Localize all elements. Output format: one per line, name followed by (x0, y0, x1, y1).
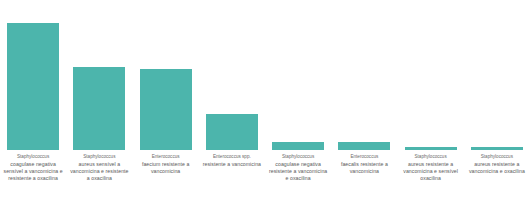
bar-slot (265, 0, 331, 150)
category-label-2: Enterococcus faecium resistente a vancom… (133, 150, 199, 175)
category-genus-2: Enterococcus (135, 154, 197, 161)
category-text-1: aureus sensível a vancomicina e resisten… (68, 161, 130, 183)
category-label-4: Staphylococcus coagulase negativa resist… (265, 150, 331, 182)
bar-slot (0, 0, 66, 150)
category-label-7: Staphylococcus aureus resistente a vanco… (464, 150, 530, 175)
bar-slot (133, 0, 199, 150)
category-genus-7: Staphylococcus (466, 154, 528, 161)
bar-slot (66, 0, 132, 150)
category-label-0: Staphylococcus coagulase negativa sensív… (0, 150, 66, 182)
bar-4[interactable] (272, 142, 324, 150)
category-text-4: coagulase negativa resistente a vancomic… (267, 161, 329, 183)
category-genus-4: Staphylococcus (267, 154, 329, 161)
category-label-3: Enterococcus spp. resistente a vancomici… (199, 150, 265, 168)
category-genus-1: Staphylococcus (68, 154, 130, 161)
category-text-5: faecalis resistente a vancomicina (333, 161, 395, 175)
category-genus-6: Staphylococcus (400, 154, 462, 161)
category-text-7: aureus resistente a vancomicina e oxacil… (466, 161, 528, 175)
bar-5[interactable] (338, 142, 390, 150)
category-text-3: resistente a vancomicina (201, 161, 263, 168)
bar-slot (331, 0, 397, 150)
category-label-6: Staphylococcus aureus resistente a vanco… (398, 150, 464, 182)
category-genus-0: Staphylococcus (2, 154, 64, 161)
bars-container (0, 0, 530, 150)
bar-slot (464, 0, 530, 150)
bar-1[interactable] (73, 67, 125, 150)
category-labels: Staphylococcus coagulase negativa sensív… (0, 150, 530, 222)
bar-chart: Staphylococcus coagulase negativa sensív… (0, 0, 530, 222)
bar-slot (398, 0, 464, 150)
category-text-6: aureus resistente a vancomicina e sensív… (400, 161, 462, 183)
bar-slot (199, 0, 265, 150)
bar-3[interactable] (206, 114, 258, 150)
category-genus-3: Enterococcus spp. (201, 154, 263, 161)
category-label-1: Staphylococcus aureus sensível a vancomi… (66, 150, 132, 182)
bar-0[interactable] (7, 23, 59, 150)
category-label-5: Enterococcus faecalis resistente a vanco… (331, 150, 397, 175)
bar-2[interactable] (140, 69, 192, 150)
category-genus-5: Enterococcus (333, 154, 395, 161)
plot-area (0, 0, 530, 150)
category-text-0: coagulase negativa sensível a vancomicin… (2, 161, 64, 183)
category-text-2: faecium resistente a vancomicina (135, 161, 197, 175)
